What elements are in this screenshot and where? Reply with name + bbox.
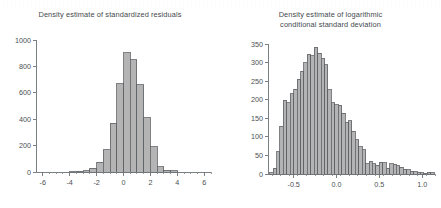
histogram-bar [335, 105, 338, 174]
histogram-bars [270, 47, 434, 174]
chart-panel-standardized-residuals: Density estimate of standardized residua… [0, 0, 220, 208]
histogram-bar [318, 53, 321, 174]
histogram-bar [383, 163, 386, 174]
histogram-bar [304, 63, 307, 174]
x-tick-label: -4 [66, 178, 72, 187]
x-tick-label: 4 [175, 178, 179, 187]
y-tick-label: 600 [19, 88, 31, 97]
y-tick-label: 50 [255, 151, 263, 160]
histogram-bar [290, 94, 293, 174]
y-tick-label: 100 [251, 132, 263, 141]
x-tick-label: -2 [93, 178, 99, 187]
histogram-bar [376, 165, 379, 174]
histogram-bar [372, 164, 375, 174]
histogram-bar [124, 53, 131, 172]
y-tick-label: 350 [251, 40, 263, 49]
histogram-bar [287, 103, 290, 174]
histogram-bar [294, 89, 297, 174]
histogram-bar [328, 90, 331, 174]
histogram-bars [70, 53, 178, 173]
histogram-bar [390, 164, 393, 174]
histogram-bar [407, 170, 410, 174]
histogram-bar [280, 126, 283, 174]
histogram-bar [283, 100, 286, 174]
x-axis-ticks: -6-4-20246 [40, 172, 207, 187]
histogram-bar [403, 169, 406, 174]
histogram-bar [345, 122, 348, 174]
x-tick-label: 0.5 [374, 180, 384, 189]
y-tick-label: 250 [251, 77, 263, 86]
histogram-bar [90, 168, 97, 172]
y-tick-label: 400 [19, 115, 31, 124]
histogram-bar [338, 105, 341, 174]
histogram-bar [273, 168, 276, 174]
y-tick-label: 150 [251, 114, 263, 123]
histogram-bar [325, 65, 328, 174]
x-tick-label: -6 [40, 178, 46, 187]
histogram-bar [393, 164, 396, 174]
histogram-bar [157, 167, 164, 172]
x-tick-label: -0.5 [287, 180, 299, 189]
chart-panel-log-conditional-sd: Density estimate of logarithmic conditio… [220, 0, 441, 208]
y-tick-label: 200 [251, 95, 263, 104]
histogram-bar [117, 84, 124, 172]
histogram-bar [307, 54, 310, 174]
histogram-bar [386, 168, 389, 174]
histogram-bar [277, 152, 280, 174]
x-tick-label: 6 [202, 178, 206, 187]
histogram-bar [301, 71, 304, 174]
plot-area-log-conditional-sd: 050100150200250300350-0.50.00.51.0 [220, 0, 441, 208]
histogram-bar [311, 56, 314, 174]
y-tick-label: 0 [27, 168, 31, 177]
histogram-bar [150, 147, 157, 172]
histogram-bar [331, 103, 334, 174]
histogram-bar [297, 79, 300, 174]
x-tick-label: 0 [122, 178, 126, 187]
histogram-bar [97, 162, 104, 172]
x-tick-label: 0.0 [332, 180, 342, 189]
histogram-bar [110, 123, 117, 172]
histogram-bar [379, 162, 382, 174]
histogram-bar [103, 150, 110, 172]
plot-area-standardized-residuals: 02004006008001000-6-4-20246 [0, 0, 220, 208]
histogram-bar [369, 161, 372, 174]
histogram-bar [352, 131, 355, 174]
histogram-bar [349, 121, 352, 174]
histogram-bar [359, 147, 362, 174]
x-axis-ticks: -0.50.00.51.0 [287, 174, 427, 189]
histogram-bar [355, 140, 358, 174]
histogram-bar [396, 166, 399, 174]
histogram-bar [400, 167, 403, 174]
histogram-bar [362, 150, 365, 174]
y-tick-label: 200 [19, 141, 31, 150]
histogram-bar [144, 118, 151, 172]
y-axis-ticks: 02004006008001000 [15, 36, 36, 177]
histogram-bar [137, 85, 144, 172]
y-tick-label: 0 [259, 170, 263, 179]
histogram-bar [342, 113, 345, 174]
y-tick-label: 1000 [15, 36, 31, 45]
histogram-bar [321, 58, 324, 174]
y-axis-ticks: 050100150200250300350 [251, 40, 268, 179]
figure-container: Density estimate of standardized residua… [0, 0, 441, 208]
histogram-bar [314, 47, 317, 174]
y-tick-label: 800 [19, 62, 31, 71]
histogram-bar [366, 164, 369, 174]
y-tick-label: 300 [251, 58, 263, 67]
histogram-bar [130, 60, 137, 172]
x-tick-label: 2 [148, 178, 152, 187]
x-tick-label: 1.0 [417, 180, 427, 189]
